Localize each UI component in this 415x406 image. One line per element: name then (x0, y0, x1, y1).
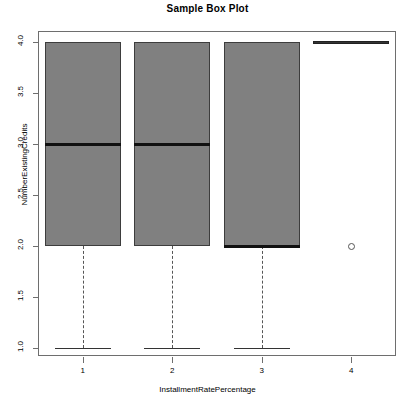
box-plot-figure: Sample Box Plot NumberExistingCredits In… (0, 0, 415, 406)
whisker-cap-lower (234, 348, 290, 349)
y-axis-tick (33, 93, 39, 94)
median-line (224, 245, 300, 248)
whisker-cap-lower (55, 348, 111, 349)
y-axis-tick-label: 2.5 (16, 182, 25, 206)
y-axis-tick (33, 348, 39, 349)
x-axis-label: InstallmentRatePercentage (0, 385, 415, 394)
y-axis-tick (33, 246, 39, 247)
whisker-cap-lower (144, 348, 200, 349)
y-axis-tick-label: 1.5 (16, 284, 25, 308)
chart-title: Sample Box Plot (0, 3, 415, 14)
x-axis-tick-label: 3 (249, 366, 275, 375)
y-axis-tick-label: 4.0 (16, 29, 25, 53)
box (224, 42, 300, 246)
y-axis-tick-label: 2.0 (16, 233, 25, 257)
y-axis-tick (33, 297, 39, 298)
whisker-lower (172, 246, 173, 348)
y-axis-tick-label: 3.5 (16, 80, 25, 104)
y-axis-tick-label: 1.0 (16, 335, 25, 359)
y-axis-label: NumberExistingCredits (20, 95, 29, 235)
x-axis-tick-label: 1 (70, 366, 96, 375)
x-axis-tick-label: 2 (159, 366, 185, 375)
x-axis-tick-label: 4 (338, 366, 364, 375)
x-axis-tick (83, 357, 84, 363)
y-axis-tick (33, 42, 39, 43)
y-axis-tick (33, 144, 39, 145)
whisker-lower (262, 246, 263, 348)
y-axis-tick-label: 3.0 (16, 131, 25, 155)
box-collapsed (313, 41, 389, 44)
x-axis-tick (262, 357, 263, 363)
x-axis-tick (351, 357, 352, 363)
y-axis-tick (33, 195, 39, 196)
median-line (134, 143, 210, 146)
whisker-lower (83, 246, 84, 348)
median-line (45, 143, 121, 146)
x-axis-tick (172, 357, 173, 363)
